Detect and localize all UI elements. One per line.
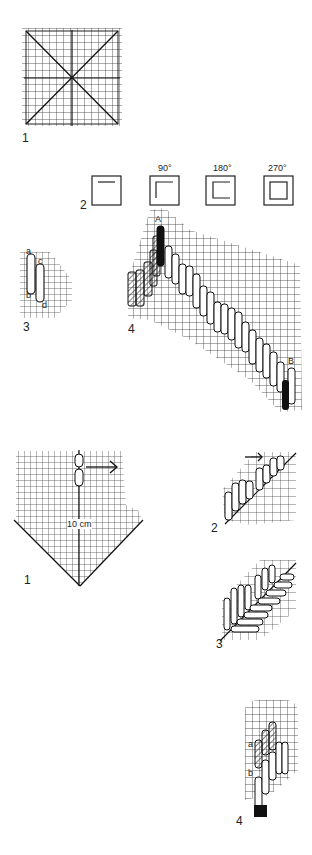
figure-2-bottom-diagonal-loops bbox=[222, 452, 296, 525]
point-c-label: c bbox=[38, 256, 43, 266]
point-a-bottom-label: a bbox=[248, 739, 253, 749]
measure-label: 10 cm bbox=[67, 519, 92, 529]
figure-1-bottom-pentagon-grid bbox=[14, 450, 143, 586]
figure-4-bottom-loops bbox=[245, 700, 298, 817]
figure-1-bottom-label: 1 bbox=[24, 573, 31, 587]
point-A-label: A bbox=[155, 214, 161, 224]
figure-1-label: 1 bbox=[22, 131, 29, 145]
figure-3-bottom-label: 3 bbox=[216, 637, 223, 651]
angle-180-label: 180° bbox=[213, 163, 232, 173]
diagram-canvas bbox=[0, 0, 312, 855]
figure-1-grid-square bbox=[22, 28, 122, 126]
figure-4-label: 4 bbox=[128, 322, 135, 336]
angle-90-label: 90° bbox=[158, 163, 172, 173]
figure-2-label: 2 bbox=[80, 198, 87, 212]
point-d-label: d bbox=[42, 300, 47, 310]
figure-2-bottom-label: 2 bbox=[211, 521, 218, 535]
point-b-label: b bbox=[26, 290, 31, 300]
angle-270-label: 270° bbox=[268, 163, 287, 173]
point-B-label: B bbox=[288, 356, 294, 366]
figure-3-label: 3 bbox=[23, 320, 30, 334]
figure-4-bottom-label: 4 bbox=[236, 814, 243, 828]
point-a-label: a bbox=[26, 246, 31, 256]
figure-4-diagonal-loops bbox=[128, 208, 302, 412]
point-b-bottom-label: b bbox=[248, 768, 253, 778]
figure-3-bottom-herringbone bbox=[220, 560, 296, 641]
figure-2-rotation-squares bbox=[92, 176, 293, 205]
